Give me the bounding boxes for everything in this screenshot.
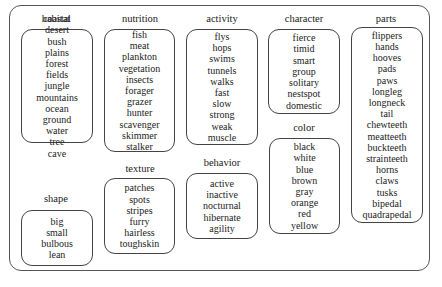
nutrition-box: fish meat plankton vegetation insects fo… bbox=[104, 29, 175, 152]
habitat-item: cave bbox=[48, 148, 66, 159]
parts-item: quadrapedal bbox=[363, 209, 412, 220]
nutrition-item: fish bbox=[132, 29, 147, 40]
character-item: smart bbox=[293, 55, 315, 66]
parts-item: longneck bbox=[369, 97, 406, 108]
habitat-item: water bbox=[46, 125, 68, 136]
parts-item: longleg bbox=[372, 86, 402, 97]
texture-item: stripes bbox=[126, 205, 152, 216]
texture-item: toughskin bbox=[120, 238, 159, 249]
activity-item: swims bbox=[209, 53, 235, 64]
shape-item: small bbox=[46, 227, 68, 238]
color-item: white bbox=[293, 152, 315, 163]
habitat-item: ground bbox=[43, 114, 71, 125]
color-item: brown bbox=[292, 175, 318, 186]
color-box: black white blue brown gray orange red y… bbox=[269, 138, 340, 234]
nutrition-item: skimmer bbox=[122, 130, 157, 141]
activity-item: strong bbox=[210, 109, 235, 120]
nutrition-item: scavenger bbox=[120, 119, 160, 130]
character-item: group bbox=[292, 66, 315, 77]
texture-title: texture bbox=[104, 163, 176, 174]
figure-caption-bleed bbox=[120, 277, 320, 285]
behavior-title: behavior bbox=[186, 157, 258, 168]
color-item: black bbox=[294, 141, 316, 152]
parts-item: tusks bbox=[377, 187, 398, 198]
activity-item: weak bbox=[211, 121, 232, 132]
character-title: character bbox=[268, 13, 340, 24]
shape-title: shape bbox=[22, 193, 90, 204]
parts-item: paws bbox=[377, 75, 398, 86]
texture-item: hairless bbox=[124, 227, 155, 238]
nutrition-item: hunter bbox=[127, 107, 153, 118]
habitat-item: jungle bbox=[45, 80, 70, 91]
parts-item: tail bbox=[381, 108, 394, 119]
parts-item: strainteeth bbox=[366, 153, 408, 164]
shape-item: big bbox=[51, 216, 64, 227]
parts-item: bipedal bbox=[372, 198, 401, 209]
activity-item: slow bbox=[213, 98, 232, 109]
activity-item: muscle bbox=[208, 132, 236, 143]
color-title: color bbox=[268, 122, 340, 133]
shape-item: lean bbox=[49, 249, 66, 260]
character-box: fierce timid smart group solitary nestsp… bbox=[268, 29, 340, 114]
texture-item: furry bbox=[130, 216, 150, 227]
character-item: nestspot bbox=[288, 88, 321, 99]
habitat-item: coastal bbox=[43, 13, 71, 24]
parts-item: hooves bbox=[373, 52, 401, 63]
parts-item: claws bbox=[376, 175, 399, 186]
habitat-item: fields bbox=[46, 69, 68, 80]
habitat-item: tree bbox=[50, 136, 65, 147]
nutrition-item: grazer bbox=[127, 96, 152, 107]
texture-item: patches bbox=[125, 182, 155, 193]
shape-item: bulbous bbox=[41, 238, 73, 249]
habitat-item: ocean bbox=[45, 103, 68, 114]
behavior-item: nocturnal bbox=[203, 200, 241, 211]
shape-box: big small bulbous lean bbox=[21, 210, 93, 266]
habitat-item: desert bbox=[45, 24, 69, 35]
nutrition-item: vegetation bbox=[119, 63, 161, 74]
color-item: yellow bbox=[291, 220, 318, 231]
character-item: fierce bbox=[293, 32, 316, 43]
color-item: orange bbox=[291, 197, 318, 208]
nutrition-item: meat bbox=[130, 40, 149, 51]
parts-item: flippers bbox=[372, 30, 403, 41]
activity-title: activity bbox=[186, 13, 258, 24]
habitat-item: mountains bbox=[36, 92, 78, 103]
behavior-item: inactive bbox=[206, 189, 238, 200]
nutrition-item: plankton bbox=[122, 51, 157, 62]
activity-item: hops bbox=[213, 42, 232, 53]
character-item: solitary bbox=[289, 77, 319, 88]
parts-item: pads bbox=[378, 63, 396, 74]
parts-item: meatteeth bbox=[368, 131, 407, 142]
activity-item: flys bbox=[215, 31, 230, 42]
habitat-item: forest bbox=[46, 58, 69, 69]
behavior-item: agility bbox=[209, 223, 235, 234]
texture-item: spots bbox=[129, 194, 150, 205]
nutrition-item: forager bbox=[125, 85, 154, 96]
nutrition-item: stalker bbox=[126, 141, 153, 152]
nutrition-item: insects bbox=[126, 74, 153, 85]
activity-item: fast bbox=[215, 87, 229, 98]
habitat-box: coastal desert bush plains forest fields… bbox=[21, 29, 93, 143]
parts-item: horns bbox=[376, 164, 398, 175]
parts-item: buckteeth bbox=[368, 142, 407, 153]
activity-item: tunnels bbox=[208, 65, 237, 76]
character-item: timid bbox=[293, 43, 314, 54]
parts-box: flippers hands hooves pads paws longleg … bbox=[351, 27, 423, 223]
texture-box: patches spots stripes furry hairless tou… bbox=[104, 178, 175, 254]
behavior-box: active inactive nocturnal hibernate agil… bbox=[186, 173, 258, 239]
behavior-item: hibernate bbox=[203, 212, 240, 223]
parts-item: chewteeth bbox=[367, 119, 408, 130]
parts-title: parts bbox=[350, 13, 422, 24]
nutrition-title: nutrition bbox=[104, 13, 176, 24]
color-item: red bbox=[298, 208, 311, 219]
behavior-item: active bbox=[210, 178, 234, 189]
activity-box: flys hops swims tunnels walks fast slow … bbox=[186, 29, 258, 145]
color-item: gray bbox=[296, 186, 314, 197]
parts-item: hands bbox=[375, 41, 398, 52]
character-item: domestic bbox=[286, 100, 322, 111]
habitat-item: bush bbox=[48, 36, 67, 47]
activity-item: walks bbox=[210, 76, 233, 87]
color-item: blue bbox=[296, 164, 313, 175]
habitat-item: plains bbox=[45, 47, 69, 58]
